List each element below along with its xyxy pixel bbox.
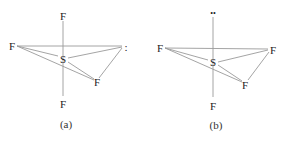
equatorial-left-atom: F xyxy=(9,40,15,52)
axial-bottom-atom: F xyxy=(60,98,66,110)
panel-b: •• F S F F F (b) xyxy=(157,9,276,132)
sf4-structures-diagram: F F S : F F (a) •• F S F F F (b) xyxy=(0,0,281,143)
s-left-bond xyxy=(17,46,58,56)
central-atom: S xyxy=(210,56,216,68)
equatorial-front-atom: F xyxy=(242,79,248,91)
s-right-bond xyxy=(68,47,122,58)
axial-top-atom: F xyxy=(60,10,66,22)
equatorial-left-front-edge xyxy=(17,46,94,80)
panel-caption: (b) xyxy=(210,119,223,132)
lone-pair: : xyxy=(124,41,127,53)
panel-a: F F S : F F (a) xyxy=(9,10,128,131)
central-atom: S xyxy=(60,53,66,65)
axial-bottom-atom: F xyxy=(210,100,216,112)
equatorial-front-atom: F xyxy=(94,76,100,88)
right-front-edge xyxy=(248,52,269,80)
right-front-edge xyxy=(99,48,122,78)
s-right-bond xyxy=(218,50,268,62)
equatorial-left-atom: F xyxy=(157,42,163,54)
s-left-bond xyxy=(165,48,208,60)
panel-caption: (a) xyxy=(60,118,73,131)
equatorial-back-edge xyxy=(165,48,268,49)
lone-pair: •• xyxy=(210,9,216,18)
equatorial-left-front-edge xyxy=(165,48,242,82)
equatorial-right-atom: F xyxy=(270,44,276,56)
